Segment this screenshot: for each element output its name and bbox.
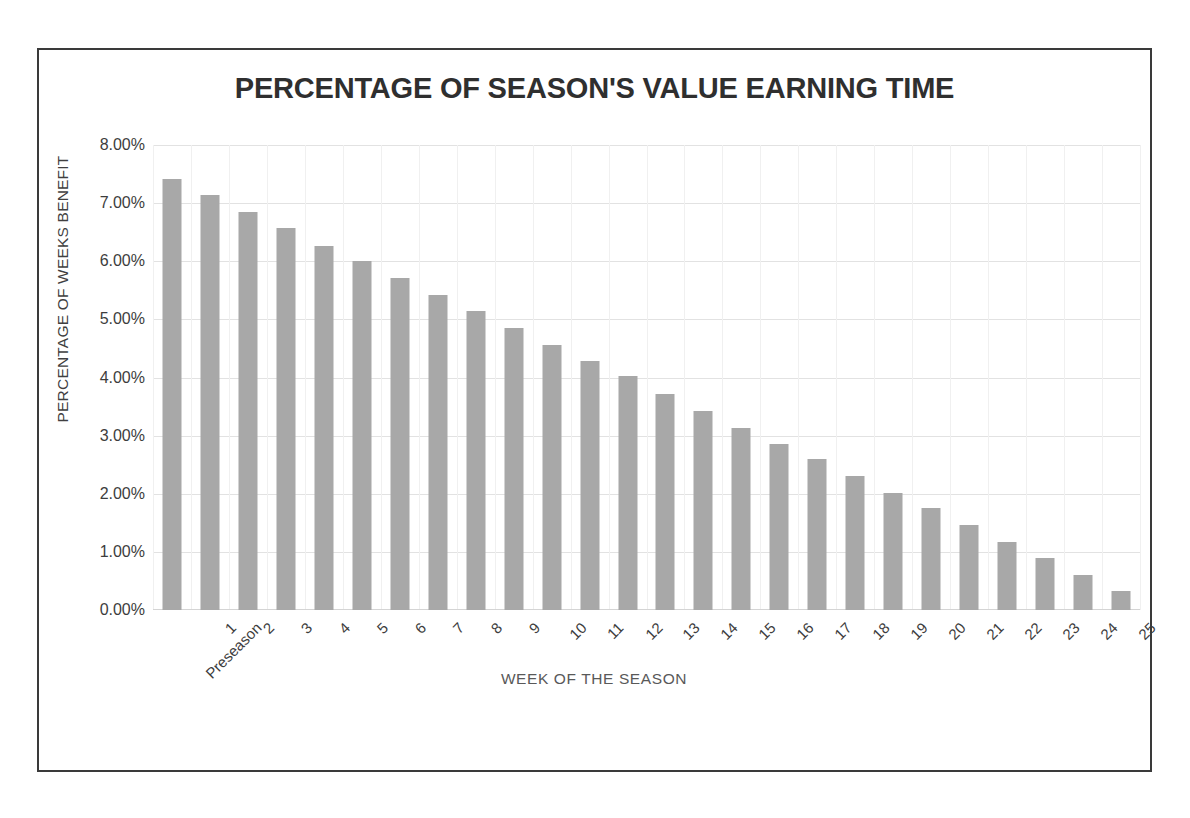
x-tick-label: 7 (449, 619, 467, 637)
bar-slot (229, 145, 267, 610)
x-tick-label: 25 (1135, 619, 1159, 643)
bar-slot (609, 145, 647, 610)
x-tick-label: 12 (641, 619, 665, 643)
bar-slot (381, 145, 419, 610)
x-tick-label: 15 (755, 619, 779, 643)
bar-slot (457, 145, 495, 610)
bar[interactable] (1112, 591, 1131, 610)
bar-slot (1026, 145, 1064, 610)
bar-slot (419, 145, 457, 610)
bar[interactable] (200, 195, 219, 610)
bar[interactable] (884, 493, 903, 610)
x-tick-label: 5 (373, 619, 391, 637)
x-tick-label: 8 (487, 619, 505, 637)
bar-slot (1064, 145, 1102, 610)
bar-slot (343, 145, 381, 610)
x-tick-label: 23 (1059, 619, 1083, 643)
bar-slot (153, 145, 191, 610)
bar-slot (533, 145, 571, 610)
bar[interactable] (504, 328, 523, 610)
bar-slot (798, 145, 836, 610)
x-axis-title: WEEK OF THE SEASON (144, 670, 1044, 688)
bar-slot (722, 145, 760, 610)
x-tick-label: 24 (1097, 619, 1121, 643)
bar[interactable] (238, 212, 257, 610)
bar-slot (267, 145, 305, 610)
x-tick-label: 20 (945, 619, 969, 643)
bar[interactable] (542, 345, 561, 610)
bar-slot (988, 145, 1026, 610)
x-tick-label: 16 (793, 619, 817, 643)
bar[interactable] (352, 261, 371, 610)
chart-frame: PERCENTAGE OF SEASON'S VALUE EARNING TIM… (37, 48, 1152, 772)
x-tick-label: 19 (907, 619, 931, 643)
bar[interactable] (960, 525, 979, 610)
x-tick-label: 21 (983, 619, 1007, 643)
x-tick-label: 9 (525, 619, 543, 637)
bar-slot (495, 145, 533, 610)
y-tick-label: 4.00% (73, 369, 145, 387)
y-tick-label: 0.00% (73, 601, 145, 619)
bar[interactable] (694, 411, 713, 610)
bar-slot (684, 145, 722, 610)
x-tick-label: 2 (259, 619, 277, 637)
bar-slot (874, 145, 912, 610)
x-tick-label: 18 (869, 619, 893, 643)
y-tick-label: 2.00% (73, 485, 145, 503)
y-tick-label: 7.00% (73, 194, 145, 212)
bar[interactable] (846, 476, 865, 610)
bar[interactable] (998, 542, 1017, 610)
bar[interactable] (656, 394, 675, 610)
bar[interactable] (1036, 558, 1055, 610)
bar-slot (305, 145, 343, 610)
y-axis-tick-labels: 8.00%7.00%6.00%5.00%4.00%3.00%2.00%1.00%… (65, 145, 145, 610)
y-tick-label: 1.00% (73, 543, 145, 561)
bar[interactable] (390, 278, 409, 610)
bar[interactable] (314, 246, 333, 610)
y-tick-label: 3.00% (73, 427, 145, 445)
bar[interactable] (1074, 575, 1093, 610)
gridline-vertical (1140, 145, 1141, 610)
bar-slot (760, 145, 798, 610)
plot-area (153, 145, 1140, 610)
x-tick-label: 3 (297, 619, 315, 637)
x-axis-tick-labels: Preseason1234567891011121314151617181920… (153, 613, 1140, 673)
bar[interactable] (732, 428, 751, 611)
x-tick-label: 11 (603, 619, 626, 642)
bar[interactable] (276, 228, 295, 610)
bar[interactable] (580, 361, 599, 610)
bar[interactable] (808, 459, 827, 610)
bar[interactable] (922, 508, 941, 610)
bar-slot (647, 145, 685, 610)
x-tick-label: 13 (679, 619, 703, 643)
x-tick-label: 10 (565, 619, 589, 643)
x-tick-label: 6 (411, 619, 429, 637)
bar-slot (191, 145, 229, 610)
bar-slot (912, 145, 950, 610)
bar-slot (836, 145, 874, 610)
x-tick-label: 22 (1021, 619, 1045, 643)
bars-layer (153, 145, 1140, 610)
x-tick-label: 17 (831, 619, 855, 643)
chart-title: PERCENTAGE OF SEASON'S VALUE EARNING TIM… (39, 72, 1150, 105)
bar-slot (1102, 145, 1140, 610)
bar-slot (571, 145, 609, 610)
y-tick-label: 6.00% (73, 252, 145, 270)
y-tick-label: 5.00% (73, 310, 145, 328)
x-tick-label: 4 (335, 619, 353, 637)
bar[interactable] (770, 444, 789, 610)
bar[interactable] (428, 295, 447, 610)
bar-slot (950, 145, 988, 610)
bar[interactable] (618, 376, 637, 610)
bar[interactable] (162, 179, 181, 610)
bar[interactable] (466, 311, 485, 610)
x-tick-label: 14 (717, 619, 741, 643)
y-tick-label: 8.00% (73, 136, 145, 154)
